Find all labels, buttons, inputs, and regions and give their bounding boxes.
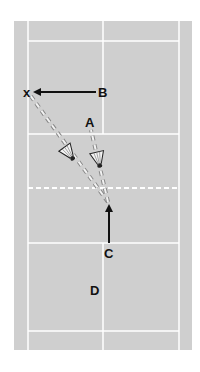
label-d: D <box>90 283 99 298</box>
badminton-court-diagram: x B A C D <box>0 0 200 372</box>
label-a: A <box>85 115 95 130</box>
label-c: C <box>104 246 114 261</box>
label-b: B <box>98 85 107 100</box>
label-x-marker: x <box>23 85 31 100</box>
